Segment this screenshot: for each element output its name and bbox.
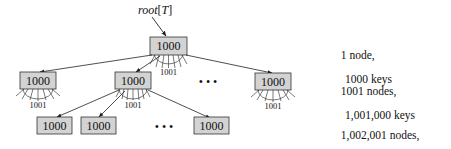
edge-middle-child1 [57,90,119,117]
level2-node-2: 1000 [81,117,116,134]
svg-text:1000: 1000 [157,39,181,53]
svg-text:1000: 1000 [26,74,50,88]
level1-left-fanout-label: 1001 [30,100,47,110]
level2-node-last: 1000 [194,117,229,134]
level2-nodes-text: 1,002,001 nodes, [341,129,420,141]
level2-ellipsis: • • • [155,120,174,134]
level0-nodes-text: 1 node, [341,49,375,61]
level2-count-label: 1,002,001 nodes, 1,002,001,000 keys [335,117,435,149]
level2-node-1: 1000 [37,117,72,134]
root-node: 1000 [150,37,187,55]
level1-node-middle: 1000 [115,72,151,89]
level1-middle-fanout-label: 1001 [125,100,142,110]
edge-root-right [186,55,272,73]
edge-root-middle [136,56,160,72]
edge-middle-child-last [148,90,210,118]
edge-middle-child2 [99,91,125,117]
svg-text:1000: 1000 [121,74,145,88]
level1-right-fanout-label: 1001 [265,101,282,111]
level1-node-left: 1000 [20,72,56,89]
root-label: root[T] [138,3,172,17]
svg-text:1000: 1000 [200,119,224,133]
svg-text:1000: 1000 [261,75,285,89]
edge-root-left [40,55,152,72]
level1-node-right: 1000 [255,73,291,90]
svg-text:1000: 1000 [87,119,111,133]
root-pointer-arrow [152,17,166,36]
level1-ellipsis: • • • [199,75,218,89]
level1-nodes-text: 1001 nodes, [341,85,397,97]
root-fanout-label: 1001 [160,67,177,77]
svg-text:1000: 1000 [43,119,67,133]
